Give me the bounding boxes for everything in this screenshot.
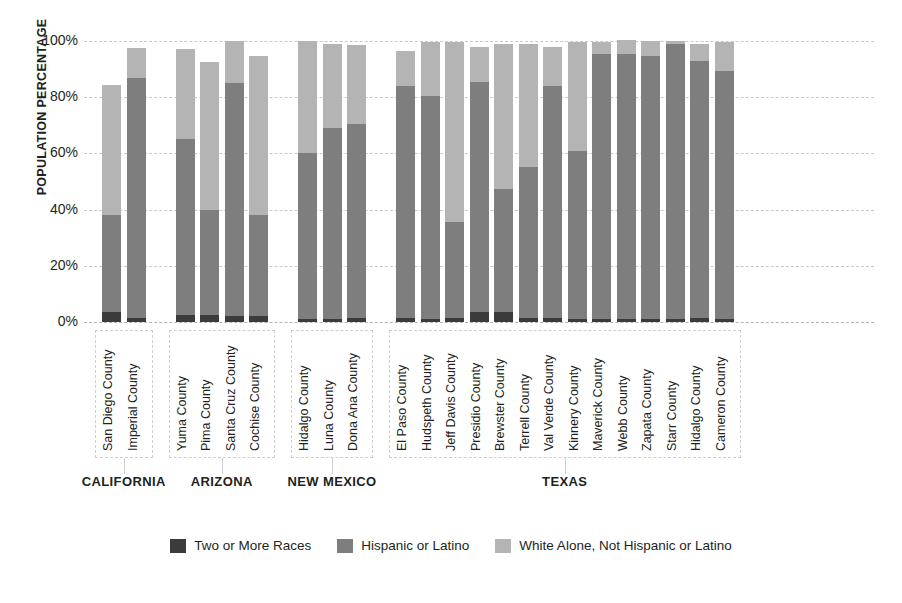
bar-segment xyxy=(176,49,195,139)
county-label: Dona Ana County xyxy=(344,331,363,451)
bar-segment xyxy=(421,96,440,319)
legend-swatch-icon xyxy=(170,539,186,553)
county-label: Maverick County xyxy=(589,331,608,451)
y-tick-0: 0% xyxy=(26,313,78,329)
bar-segment xyxy=(494,189,513,313)
bar-segment xyxy=(347,45,366,124)
county-label: Terrell County xyxy=(516,331,535,451)
bar[interactable] xyxy=(641,41,660,322)
bar[interactable] xyxy=(617,41,636,322)
county-label: Zapata County xyxy=(638,331,657,451)
state-label: TEXAS xyxy=(475,474,655,489)
state-label: NEW MEXICO xyxy=(242,474,422,489)
bar-segment xyxy=(298,153,317,319)
bar[interactable] xyxy=(690,41,709,322)
county-label: Imperial County xyxy=(124,331,143,451)
bar-segment xyxy=(568,151,587,320)
legend-label: White Alone, Not Hispanic or Latino xyxy=(519,538,731,553)
bar-segment xyxy=(519,167,538,317)
bar-segment xyxy=(470,312,489,322)
gridline-0 xyxy=(84,322,874,323)
bar-segment xyxy=(200,62,219,210)
bar[interactable] xyxy=(323,41,342,322)
bar[interactable] xyxy=(200,41,219,322)
bar[interactable] xyxy=(715,41,734,322)
bar[interactable] xyxy=(396,41,415,322)
bar-segment xyxy=(690,44,709,61)
bar-segment xyxy=(470,47,489,82)
bar[interactable] xyxy=(445,41,464,322)
bar-segment xyxy=(298,41,317,153)
bar-segment xyxy=(470,82,489,312)
bar[interactable] xyxy=(176,41,195,322)
bar-segment xyxy=(445,222,464,318)
bar-segment xyxy=(249,215,268,316)
bar-segment xyxy=(249,56,268,215)
bar[interactable] xyxy=(494,41,513,322)
legend-label: Two or More Races xyxy=(194,538,311,553)
group-connector-line xyxy=(222,458,223,474)
bar-segment xyxy=(666,41,685,44)
bar-segment xyxy=(347,124,366,318)
bar[interactable] xyxy=(347,41,366,322)
bar[interactable] xyxy=(568,41,587,322)
bar-segment xyxy=(200,315,219,322)
bar[interactable] xyxy=(102,41,121,322)
bar-segment xyxy=(102,85,121,216)
county-label: El Paso County xyxy=(393,331,412,451)
bar-segment xyxy=(445,42,464,222)
bar-segment xyxy=(666,44,685,319)
bar-segment xyxy=(592,42,611,53)
county-label: Hidalgo County xyxy=(687,331,706,451)
county-label: Brewster County xyxy=(491,331,510,451)
bar[interactable] xyxy=(225,41,244,322)
bar-segment xyxy=(494,44,513,189)
bar-segment xyxy=(494,312,513,322)
bar[interactable] xyxy=(543,41,562,322)
bar-segment xyxy=(568,42,587,150)
county-group-box: El Paso CountyHudspeth CountyJeff Davis … xyxy=(389,330,741,458)
legend-swatch-icon xyxy=(337,539,353,553)
group-connector-line xyxy=(565,458,566,474)
bar-segment xyxy=(102,215,121,312)
y-tick-60: 60% xyxy=(26,144,78,160)
county-label: Cameron County xyxy=(712,331,731,451)
bar[interactable] xyxy=(421,41,440,322)
bar[interactable] xyxy=(470,41,489,322)
bar-segment xyxy=(715,42,734,70)
bar-segment xyxy=(249,316,268,322)
bar-segment xyxy=(225,83,244,316)
group-connector-line xyxy=(332,458,333,474)
bar-segment xyxy=(519,318,538,322)
county-label: Santa Cruz County xyxy=(222,331,241,451)
county-label: Webb County xyxy=(614,331,633,451)
bar-segment xyxy=(323,44,342,128)
county-label: Pima County xyxy=(197,331,216,451)
bar-segment xyxy=(127,78,146,318)
bar[interactable] xyxy=(666,41,685,322)
bar-segment xyxy=(421,319,440,322)
bar-segment xyxy=(176,315,195,322)
bar[interactable] xyxy=(249,41,268,322)
bar-segment xyxy=(543,86,562,318)
bar-segment xyxy=(176,139,195,315)
county-label: Jeff Davis County xyxy=(442,331,461,451)
legend-item[interactable]: White Alone, Not Hispanic or Latino xyxy=(495,538,731,553)
county-label: Presidio County xyxy=(467,331,486,451)
bar[interactable] xyxy=(592,41,611,322)
bar-segment xyxy=(225,41,244,83)
bar[interactable] xyxy=(519,41,538,322)
county-label: Hidalgo County xyxy=(295,331,314,451)
bar-segment xyxy=(617,319,636,322)
bar-segment xyxy=(617,54,636,320)
bar[interactable] xyxy=(298,41,317,322)
bar-segment xyxy=(715,319,734,322)
bar-segment xyxy=(690,61,709,318)
bar[interactable] xyxy=(127,41,146,322)
legend-item[interactable]: Two or More Races xyxy=(170,538,311,553)
bar-segment xyxy=(617,40,636,54)
legend-item[interactable]: Hispanic or Latino xyxy=(337,538,469,553)
bar-segment xyxy=(396,86,415,318)
bar-segment xyxy=(102,312,121,322)
bar-segment xyxy=(641,319,660,322)
